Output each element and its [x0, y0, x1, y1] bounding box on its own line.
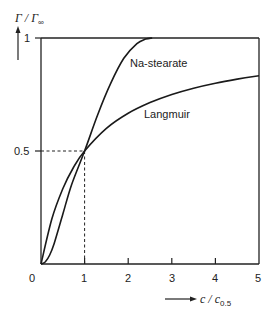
x-tick-label-2: 2 — [125, 272, 131, 284]
x-ticks — [85, 258, 216, 264]
y-tick-label-1: 1 — [24, 32, 30, 44]
chart: 1 0.5 0 1 2 3 4 5 Na-stearate Langmuir Γ… — [0, 0, 275, 317]
langmuir-curve — [41, 76, 259, 264]
na-stearate-label: Na-stearate — [130, 57, 187, 69]
y-axis-title: Γ / Γ∞ — [14, 11, 44, 27]
x-tick-label-5: 5 — [255, 272, 261, 284]
langmuir-label: Langmuir — [144, 108, 190, 120]
y-axis-arrowhead-icon — [16, 26, 21, 33]
x-tick-label-0: 0 — [29, 272, 35, 284]
y-tick-label-05: 0.5 — [14, 145, 29, 157]
x-axis-title: c / c0.5 — [200, 292, 232, 308]
x-tick-label-4: 4 — [212, 272, 218, 284]
x-tick-label-3: 3 — [169, 272, 175, 284]
x-axis-arrowhead-icon — [190, 297, 197, 302]
x-tick-label-1: 1 — [81, 272, 87, 284]
